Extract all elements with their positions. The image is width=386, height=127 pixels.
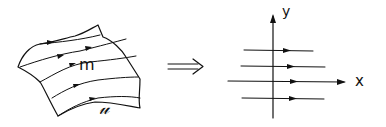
arrow-head-icon xyxy=(283,48,291,53)
straight-flow-line-2 xyxy=(241,66,325,67)
x-axis xyxy=(228,81,344,82)
flow-line-2 xyxy=(20,39,126,67)
coordinate-axes xyxy=(228,14,346,118)
arrow-head-icon xyxy=(73,84,80,88)
arrow-head-icon xyxy=(289,96,297,101)
surface-label-u: 𝓊 xyxy=(99,99,109,117)
implies-arrow-icon xyxy=(168,59,203,74)
x-axis-label: x xyxy=(355,74,364,89)
x-axis-arrow-icon xyxy=(337,79,346,85)
arrow-head-icon xyxy=(287,64,295,69)
y-axis-arrow-icon xyxy=(270,14,276,23)
arrow-head-icon xyxy=(290,79,298,84)
surface-label-m: m xyxy=(79,57,95,73)
straight-flow-line-1 xyxy=(244,50,313,51)
y-axis-label: y xyxy=(282,4,290,18)
flow-line-4 xyxy=(52,77,138,98)
diagram-canvas xyxy=(0,0,386,127)
straight-flow-line-4 xyxy=(242,98,324,99)
